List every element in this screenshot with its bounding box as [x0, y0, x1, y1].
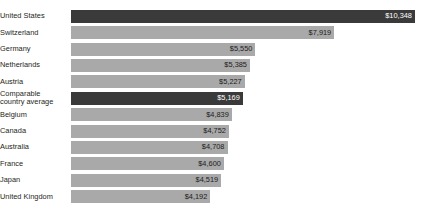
bar-category-label: Australia	[0, 143, 71, 151]
bar-row: Belgium$4,839	[0, 106, 415, 122]
bar-category-label: France	[0, 160, 71, 168]
bar-category-label: Belgium	[0, 111, 71, 119]
bar-value-label: $7,919	[309, 29, 332, 37]
bar-chart-rows: United States$10,348Switzerland$7,919Ger…	[0, 8, 415, 205]
bar-value-label: $4,752	[203, 127, 226, 135]
bar-category-label: Canada	[0, 127, 71, 135]
bar-value-label: $5,169	[217, 94, 240, 102]
bar-track: $5,550	[71, 41, 415, 57]
bar-row: Germany$5,550	[0, 41, 415, 57]
bar-row: United States$10,348	[0, 8, 415, 24]
bar: $4,752	[71, 125, 229, 138]
bar-track: $4,708	[71, 139, 415, 155]
bar-track: $4,600	[71, 156, 415, 172]
bar: $4,600	[71, 157, 224, 170]
bar: $4,708	[71, 141, 228, 154]
bar-value-label: $4,192	[185, 193, 208, 201]
bar-row: Switzerland$7,919	[0, 24, 415, 40]
bar-row: Austria$5,227	[0, 74, 415, 90]
bar: $5,227	[71, 75, 245, 88]
bar: $4,192	[71, 190, 210, 203]
bar-row: United Kingdom$4,192	[0, 188, 415, 204]
bar-track: $4,752	[71, 123, 415, 139]
bar-track: $4,519	[71, 172, 415, 188]
bar-highlighted: $10,348	[71, 10, 415, 23]
bar-track: $5,227	[71, 74, 415, 90]
bar: $7,919	[71, 26, 334, 39]
bar-track: $5,169	[71, 90, 415, 106]
bar: $4,519	[71, 174, 221, 187]
bar-value-label: $10,348	[385, 12, 412, 20]
bar-row: Comparable country average$5,169	[0, 90, 415, 106]
bar-category-label: Germany	[0, 45, 71, 53]
bar-row: Japan$4,519	[0, 172, 415, 188]
bar-category-label: Japan	[0, 176, 71, 184]
bar-track: $7,919	[71, 24, 415, 40]
bar-row: Australia$4,708	[0, 139, 415, 155]
bar-value-label: $5,227	[219, 78, 242, 86]
bar: $5,385	[71, 59, 250, 72]
bar-category-label: Comparable country average	[0, 90, 71, 106]
bar: $4,839	[71, 108, 232, 121]
bar-value-label: $4,519	[196, 176, 219, 184]
bar-track: $5,385	[71, 57, 415, 73]
bar: $5,550	[71, 43, 255, 56]
bar-category-label: United States	[0, 12, 71, 20]
bar-row: Canada$4,752	[0, 123, 415, 139]
bar-value-label: $5,385	[224, 61, 247, 69]
bar-category-label: United Kingdom	[0, 193, 71, 201]
bar-track: $4,192	[71, 188, 415, 204]
bar-value-label: $5,550	[230, 45, 253, 53]
bar-category-label: Netherlands	[0, 61, 71, 69]
bar-category-label: Austria	[0, 78, 71, 86]
bar-highlighted: $5,169	[71, 92, 243, 105]
bar-track: $4,839	[71, 106, 415, 122]
bar-row: France$4,600	[0, 156, 415, 172]
bar-value-label: $4,839	[206, 111, 229, 119]
bar-value-label: $4,600	[198, 160, 221, 168]
bar-category-label: Switzerland	[0, 29, 71, 37]
bar-row: Netherlands$5,385	[0, 57, 415, 73]
bar-value-label: $4,708	[202, 143, 225, 151]
bar-chart: United States$10,348Switzerland$7,919Ger…	[0, 0, 429, 216]
bar-track: $10,348	[71, 8, 415, 24]
